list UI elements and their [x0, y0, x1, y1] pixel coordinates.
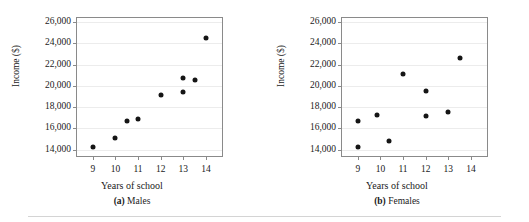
y-axis-tick [73, 86, 77, 87]
scatter-point [355, 118, 360, 123]
chart-panel-males: Income ($) 14,00016,00018,00020,00022,00… [0, 0, 264, 222]
panel-caption-text-females: Females [388, 196, 420, 206]
scatter-point [401, 71, 406, 76]
x-axis-tick [183, 156, 184, 160]
x-axis-tick [403, 156, 404, 160]
scatter-point [136, 116, 141, 121]
scatter-plot-figure: Income ($) 14,00016,00018,00020,00022,00… [0, 0, 529, 222]
scatter-point [423, 114, 428, 119]
scatter-point [113, 135, 118, 140]
chart-panel-females: Income ($) 14,00016,00018,00020,00022,00… [265, 0, 529, 222]
y-axis-tick-label: 16,000 [25, 124, 71, 134]
y-axis-tick-label: 24,000 [290, 39, 336, 49]
y-axis-tick-label: 22,000 [290, 60, 336, 70]
plot-area-males: 14,00016,00018,00020,00022,00024,00026,0… [76, 17, 223, 157]
scatter-point [457, 55, 462, 60]
plot-area-females: 14,00016,00018,00020,00022,00024,00026,0… [341, 17, 488, 157]
y-axis-tick-label: 26,000 [290, 17, 336, 27]
x-axis-title-females: Years of school [265, 180, 529, 191]
y-axis-tick [338, 86, 342, 87]
scatter-point [446, 109, 451, 114]
y-axis-title-females: Income ($) [276, 45, 286, 87]
scatter-point [90, 145, 95, 150]
figure-bottom-rule [28, 216, 501, 217]
gridline-horizontal [342, 150, 487, 151]
x-axis-tick [426, 156, 427, 160]
x-axis-tick [138, 156, 139, 160]
scatter-point [181, 90, 186, 95]
scatter-point [387, 138, 392, 143]
y-axis-tick [73, 150, 77, 151]
y-axis-tick [73, 107, 77, 108]
y-axis-title-males: Income ($) [11, 45, 21, 87]
scatter-point [355, 145, 360, 150]
y-axis-tick-label: 20,000 [25, 81, 71, 91]
x-axis-tick [358, 156, 359, 160]
gridline-horizontal [77, 128, 222, 129]
x-axis-tick [93, 156, 94, 160]
y-axis-tick [338, 107, 342, 108]
y-axis-tick-label: 20,000 [290, 81, 336, 91]
y-axis-tick-label: 26,000 [25, 17, 71, 27]
gridline-horizontal [342, 43, 487, 44]
gridline-horizontal [342, 107, 487, 108]
y-axis-tick [338, 22, 342, 23]
gridline-horizontal [342, 128, 487, 129]
gridline-horizontal [342, 65, 487, 66]
scatter-point [124, 119, 129, 124]
x-axis-tick [471, 156, 472, 160]
x-axis-title-males: Years of school [0, 180, 264, 191]
y-axis-tick [73, 22, 77, 23]
gridline-horizontal [342, 86, 487, 87]
y-axis-tick [338, 128, 342, 129]
y-axis-tick-label: 18,000 [290, 102, 336, 112]
y-axis-tick [73, 128, 77, 129]
panel-caption-label-females: (b) [374, 196, 386, 206]
gridline-horizontal [342, 22, 487, 23]
y-axis-tick [338, 43, 342, 44]
y-axis-tick [73, 43, 77, 44]
y-axis-tick [338, 150, 342, 151]
scatter-point [203, 36, 208, 41]
y-axis-tick [73, 65, 77, 66]
panel-caption-males: (a) Males [0, 196, 264, 206]
y-axis-tick-label: 22,000 [25, 60, 71, 70]
y-axis-tick-label: 14,000 [25, 145, 71, 155]
x-axis-tick [380, 156, 381, 160]
y-axis-tick-label: 18,000 [25, 102, 71, 112]
y-axis-tick-label: 16,000 [290, 124, 336, 134]
scatter-point [423, 89, 428, 94]
x-axis-tick-label: 14 [458, 165, 484, 175]
panel-caption-females: (b) Females [265, 196, 529, 206]
gridline-horizontal [77, 22, 222, 23]
scatter-point [192, 78, 197, 83]
scatter-point [375, 112, 380, 117]
gridline-horizontal [77, 150, 222, 151]
y-axis-tick [338, 65, 342, 66]
x-axis-tick [206, 156, 207, 160]
gridline-horizontal [77, 43, 222, 44]
x-axis-tick-label: 14 [193, 165, 219, 175]
gridline-horizontal [77, 65, 222, 66]
gridline-horizontal [77, 86, 222, 87]
panel-caption-text-males: Males [127, 196, 150, 206]
x-axis-tick [115, 156, 116, 160]
scatter-point [181, 76, 186, 81]
x-axis-tick [448, 156, 449, 160]
y-axis-tick-label: 14,000 [290, 145, 336, 155]
y-axis-tick-label: 24,000 [25, 39, 71, 49]
panel-caption-label-males: (a) [114, 196, 125, 206]
scatter-point [158, 92, 163, 97]
x-axis-tick [161, 156, 162, 160]
gridline-horizontal [77, 107, 222, 108]
